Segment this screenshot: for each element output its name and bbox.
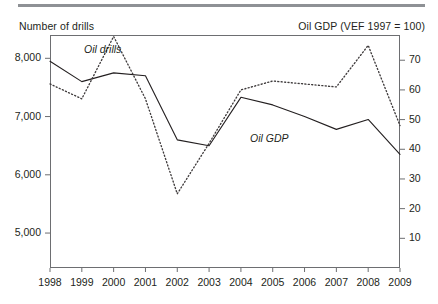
right-tick-label: 60 bbox=[409, 83, 421, 95]
right-tick-label: 40 bbox=[409, 142, 421, 154]
right-tick-label: 10 bbox=[409, 231, 421, 243]
left-tick-label: 7,000 bbox=[0, 110, 41, 122]
right-tick-label: 30 bbox=[409, 172, 421, 184]
right-tick-label: 50 bbox=[409, 113, 421, 125]
right-tick-label: 20 bbox=[409, 202, 421, 214]
left-axis-title: Number of drills bbox=[19, 20, 94, 32]
x-axis-ticks bbox=[50, 268, 400, 272]
left-tick-label: 8,000 bbox=[0, 51, 41, 63]
right-axis-ticks bbox=[400, 60, 405, 238]
header-rule bbox=[18, 4, 425, 7]
right-axis-title: Oil GDP (VEF 1997 = 100) bbox=[298, 20, 425, 32]
left-tick-label: 6,000 bbox=[0, 168, 41, 180]
left-tick-label: 5,000 bbox=[0, 226, 41, 238]
figure-container: Number of drills Oil GDP (VEF 1997 = 100… bbox=[0, 0, 438, 304]
series-label-oil-gdp: Oil GDP bbox=[250, 132, 289, 144]
series-label-oil-drills: Oil drills bbox=[84, 43, 121, 55]
plot-frame bbox=[50, 35, 400, 268]
right-tick-label: 70 bbox=[409, 53, 421, 65]
x-tick-label: 2009 bbox=[380, 276, 420, 288]
